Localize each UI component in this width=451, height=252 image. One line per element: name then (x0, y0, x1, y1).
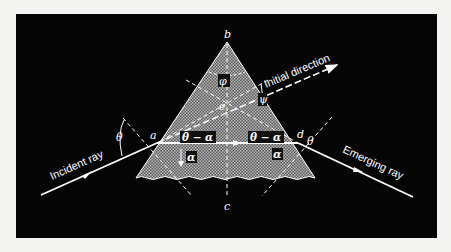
label-psi: ψ (259, 93, 268, 106)
label-e: e (219, 100, 226, 113)
label-alpha-right: α (273, 148, 282, 161)
label-theta-right: θ (307, 135, 314, 148)
label-b: b (224, 28, 231, 41)
label-d: d (297, 128, 304, 141)
label-a: a (150, 129, 157, 142)
prism-refraction-diagram: b c e a d φ ψ θ θ θ − α θ − α α α Incide… (0, 0, 451, 252)
label-theta-minus-alpha-right: θ − α (250, 131, 281, 143)
label-theta-left: θ (116, 131, 123, 144)
label-phi: φ (219, 75, 227, 88)
label-alpha-left: α (187, 151, 196, 164)
label-c: c (224, 200, 230, 213)
label-theta-minus-alpha-left: θ − α (182, 131, 213, 143)
